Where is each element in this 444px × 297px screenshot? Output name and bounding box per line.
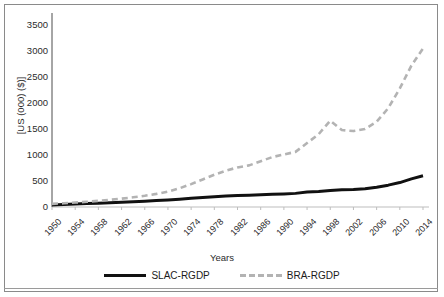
chart-figure: 3500300025002000150010005000 [US (000) (… [0,0,444,297]
data-series-group [52,48,423,205]
series-line-bra-rgdp [52,48,423,203]
legend-divider [4,288,438,289]
legend-swatch-solid-icon [104,274,146,277]
x-axis-title: Years [0,252,444,263]
axis-lines [52,13,429,210]
chart-legend: SLAC-RGDPBRA-RGDP [0,270,444,281]
legend-entry[interactable]: BRA-RGDP [240,270,340,281]
legend-label: SLAC-RGDP [151,270,209,281]
legend-swatch-dashed-icon [240,274,282,277]
legend-label: BRA-RGDP [287,270,340,281]
legend-entry[interactable]: SLAC-RGDP [104,270,209,281]
